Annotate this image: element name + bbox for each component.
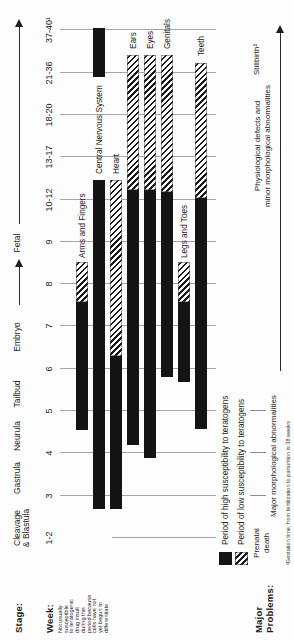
outcome-arrowhead-icon xyxy=(276,25,284,33)
fetal-axis-arrow-shaft xyxy=(19,26,20,224)
fetal-axis-arrowhead-icon xyxy=(15,19,23,27)
week-label-12: 37-40¹ xyxy=(44,8,54,52)
problems-week5-tick xyxy=(250,410,266,411)
week-gridline-2 xyxy=(60,452,216,453)
bar-low-segment-6-1 xyxy=(178,262,190,302)
bar-low-segment-2-1 xyxy=(110,180,122,356)
week-gridline-1 xyxy=(60,495,216,496)
scanned-page: Stage: Week: Cleavage& BlastulaGastrulaN… xyxy=(0,0,294,641)
week-axis-caption: Week: xyxy=(44,604,55,633)
major-problems-caption-line1: Major xyxy=(253,607,264,633)
week-gridline-12 xyxy=(60,29,216,30)
bar-low-segment-0-1 xyxy=(76,262,88,302)
stage-label-4: Embryo xyxy=(12,292,22,382)
week-label-3: 5 xyxy=(44,389,54,433)
problem-stillbirth: Stillbirth² xyxy=(252,44,261,75)
legend-label-high: Period of high susceptibility to teratog… xyxy=(221,396,230,545)
gestation-footnote: ¹Gestation time, from fertilization to p… xyxy=(285,421,291,565)
week-label-8: 10-12 xyxy=(44,178,54,222)
legend-row-low: Period of low susceptibility to teratoge… xyxy=(235,399,248,565)
prenatal-line2: death xyxy=(262,521,272,565)
bar-high-segment-5-0 xyxy=(161,192,173,377)
outcome-arrow-shaft xyxy=(280,31,281,371)
week-label-9: 13-17 xyxy=(44,135,54,179)
week-label-7: 9 xyxy=(44,220,54,264)
problems-week4-tick xyxy=(250,452,266,453)
stage-label-0-line2: & Blastula xyxy=(21,483,31,573)
bar-label-4: Eyes xyxy=(146,31,155,49)
week-label-4: 6 xyxy=(44,347,54,391)
bar-low-segment-7-1 xyxy=(195,63,207,198)
bar-label-2: Heart xyxy=(112,154,121,174)
bar-low-segment-4-1 xyxy=(144,55,156,190)
week-label-1: 3 xyxy=(44,474,54,518)
bar-label-5: Genitals xyxy=(163,19,172,49)
bar-label-3: Ears xyxy=(129,32,138,49)
problem-major-morphological: Major morphological abnormalities xyxy=(269,395,278,517)
bar-label-7: Teeth xyxy=(197,36,206,56)
stage-axis-caption: Stage: xyxy=(13,603,24,633)
week-label-5: 7 xyxy=(44,304,54,348)
bar-label-1: Central Nervous System xyxy=(95,85,104,174)
bar-high-segment-1-1 xyxy=(93,28,105,77)
bar-high-segment-0-0 xyxy=(76,302,88,430)
week-label-6: 8 xyxy=(44,262,54,306)
embryo-to-fetal-arrow-shaft xyxy=(19,267,20,305)
embryo-to-fetal-arrowhead-icon xyxy=(15,259,23,267)
bar-label-6: Legs and Toes xyxy=(180,205,189,258)
bar-low-segment-5-1 xyxy=(161,55,173,192)
problem-physiological-defects: Physiological defects and minor morpholo… xyxy=(253,71,272,221)
physio-line1: Physiological defects and xyxy=(253,71,263,221)
bar-high-segment-7-0 xyxy=(195,198,207,429)
major-problems-caption-line2: Problems: xyxy=(264,585,275,633)
bar-high-segment-2-0 xyxy=(110,356,122,509)
problems-week3-tick xyxy=(250,495,266,496)
physio-line2: minor morphological abnormalities xyxy=(263,71,273,221)
bar-high-segment-1-0 xyxy=(93,180,105,509)
legend-swatch-low-icon xyxy=(235,552,248,565)
week-label-10: 18-20 xyxy=(44,93,54,137)
legend-swatch-high-icon xyxy=(219,552,232,565)
week-label-0: 1-2 xyxy=(44,516,54,560)
week-label-11: 21-36 xyxy=(44,51,54,95)
prenatal-line1: Prenatal xyxy=(252,521,262,565)
legend-label-low: Period of low susceptibility to teratoge… xyxy=(237,399,246,545)
legend-row-high: Period of high susceptibility to teratog… xyxy=(219,396,232,565)
critical-periods-chart: Stage: Week: Cleavage& BlastulaGastrulaN… xyxy=(0,0,294,641)
week-gridline-0 xyxy=(112,537,216,538)
bar-low-segment-3-1 xyxy=(127,55,139,190)
weeks12-note-line-8: differentiate xyxy=(104,604,110,633)
week-label-2: 4 xyxy=(44,431,54,475)
bar-high-segment-6-0 xyxy=(178,302,190,382)
bar-label-0: Arms and Fingers xyxy=(78,193,87,258)
stage-label-5: Fetal xyxy=(12,198,22,288)
bar-high-segment-4-0 xyxy=(144,190,156,458)
problem-prenatal-death: Prenatal death xyxy=(252,521,271,565)
bar-high-segment-3-0 xyxy=(127,190,139,445)
